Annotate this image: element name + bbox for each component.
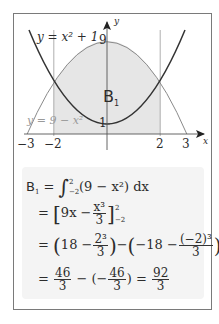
calc-line-2: = [9x −x³3]2−2 (38, 201, 125, 226)
tick-label-x-minus-3: −3 (17, 137, 35, 151)
tick-label-x-3: 3 (182, 137, 190, 151)
calc-line-1: B1 = ∫2−2(9 − x²) dx (26, 175, 149, 199)
graph (0, 0, 219, 160)
label-axis-x: x (203, 136, 208, 146)
tick-label-x-minus-2: −2 (44, 137, 62, 151)
tick-label-y9: 9 (99, 33, 107, 47)
region-label-b1: B1 (103, 87, 119, 108)
calc-line-3: = (18 −2³3)−(−18 −(−2)³3) (38, 233, 219, 258)
tick-label-y1: 1 (99, 116, 107, 130)
calc-line-4: = 463 − (−463) = 923 (38, 267, 170, 292)
calculation-box: B1 = ∫2−2(9 − x²) dx = [9x −x³3]2−2 = (1… (22, 167, 204, 299)
label-axis-y: y (114, 16, 119, 26)
label-curve2: y = 9 − x² (27, 114, 83, 127)
tick-label-x-2: 2 (156, 137, 164, 151)
label-curve1: y = x² + 1 (37, 30, 98, 44)
